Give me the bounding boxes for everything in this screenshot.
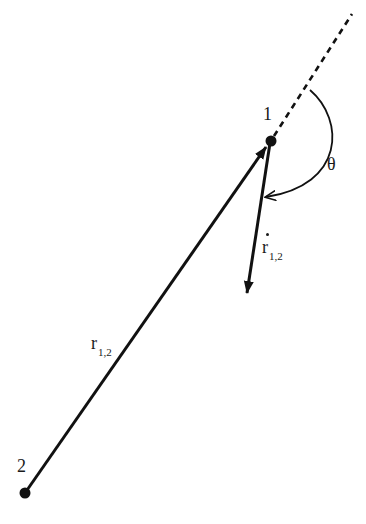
position-vector-r12	[25, 147, 266, 493]
angle-theta-arc	[266, 90, 332, 197]
point-2-dot	[20, 488, 31, 499]
angle-theta-label: θ	[327, 155, 336, 173]
velocity-vector-rdot12	[247, 143, 270, 293]
position-vector-label-main: r	[91, 333, 97, 353]
extension-dashed-line	[274, 14, 352, 136]
diagram-canvas: 1 2 θ r1,2 r1,2	[0, 0, 366, 524]
velocity-vector-label-sub: 1,2	[269, 250, 283, 262]
point-2-label: 2	[17, 457, 26, 475]
diagram-svg	[0, 0, 366, 524]
point-1-label: 1	[263, 105, 272, 123]
position-vector-label: r1,2	[91, 334, 112, 352]
velocity-vector-label-main: r	[262, 237, 268, 257]
velocity-vector-label: r1,2	[262, 238, 283, 256]
position-vector-label-sub: 1,2	[98, 346, 112, 358]
point-1-dot	[266, 136, 277, 147]
velocity-label-dot-accent	[266, 233, 269, 236]
